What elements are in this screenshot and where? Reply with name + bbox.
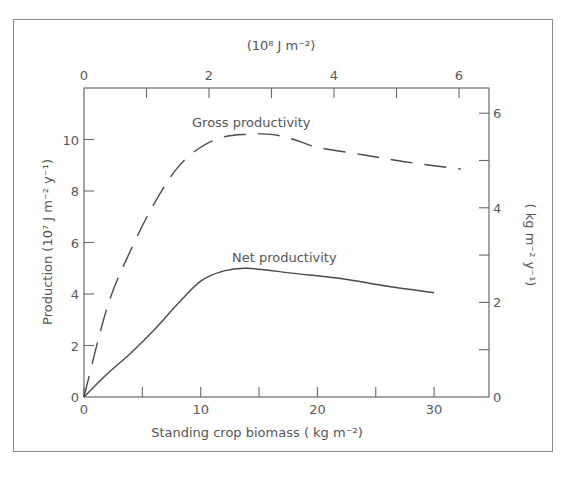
gross-productivity-annotation: Gross productivity	[192, 115, 311, 130]
y2-tick-label: 2	[493, 295, 501, 310]
x-tick-label: 0	[80, 402, 88, 417]
y-tick-label: 10	[62, 133, 79, 148]
axis-ticks	[84, 88, 489, 397]
chart: 0102030024681002460246 Gross productivit…	[0, 0, 563, 484]
x-tick-label: 20	[309, 402, 326, 417]
left-axis-title: Production (10⁷ J m⁻² y⁻¹)	[40, 159, 55, 325]
y-tick-label: 6	[71, 236, 79, 251]
y2-tick-label: 6	[493, 106, 501, 121]
y-tick-label: 0	[71, 390, 79, 405]
y2-tick-label: 0	[493, 390, 501, 405]
x-tick-label: 10	[192, 402, 209, 417]
net-productivity-annotation: Net productivity	[232, 250, 337, 265]
x2-tick-label: 4	[330, 68, 338, 83]
gross-productivity-line	[84, 134, 461, 397]
x2-tick-label: 0	[80, 68, 88, 83]
right-axis-title: ( kg m⁻² y⁻¹)	[523, 204, 538, 287]
x2-tick-label: 2	[205, 68, 213, 83]
x-tick-label: 30	[426, 402, 443, 417]
y-tick-label: 8	[71, 184, 79, 199]
net-productivity-line	[84, 268, 434, 397]
x2-tick-label: 6	[455, 68, 463, 83]
bottom-axis-title: Standing crop biomass ( kg m⁻²)	[151, 425, 363, 440]
y-tick-label: 4	[71, 287, 79, 302]
top-axis-title: (10⁸ J m⁻²)	[247, 38, 316, 53]
plot-area	[84, 88, 489, 397]
y2-tick-label: 4	[493, 201, 501, 216]
series-group	[84, 134, 461, 397]
y-tick-label: 2	[71, 339, 79, 354]
